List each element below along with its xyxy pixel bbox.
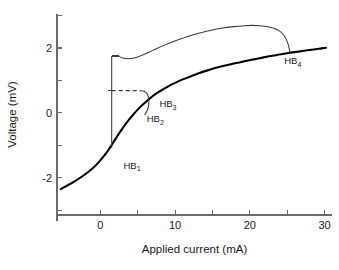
x-axis-ticks: 0102030 [97,210,330,231]
hb-subscript: 1 [137,165,141,172]
axes-group [57,14,332,221]
x-tick-label: 30 [318,219,330,231]
hb-subscript: 4 [297,61,301,68]
chart-figure: 0102030 -202 HB1HB2HB3HB4 Applied curren… [0,0,339,270]
y-tick-label: -2 [42,172,52,184]
hb-subscript: 2 [160,119,164,126]
hb-base: HB [159,98,172,109]
series-upper-periodic-branch [119,25,290,58]
x-axis-title: Applied current (mA) [142,243,248,255]
hb-subscript: 3 [173,104,177,111]
hb-base: HB [124,160,137,171]
y-tick-label: 2 [46,42,52,54]
label-HB3: HB3 [159,98,176,111]
y-axis-ticks: -202 [42,16,62,211]
bifurcation-diagram: 0102030 -202 HB1HB2HB3HB4 Applied curren… [0,0,339,270]
label-HB4: HB4 [284,55,301,68]
branch-stubs-group [108,56,119,91]
y-axis-title: Voltage (mV) [6,81,18,148]
label-HB1: HB1 [124,160,141,173]
hb-base: HB [284,55,297,66]
data-series-group [61,25,326,189]
hb-base: HB [147,113,160,124]
hopf-bifurcation-labels: HB1HB2HB3HB4 [124,55,302,172]
series-steady-state-branch [61,48,326,189]
y-tick-label: 0 [46,107,52,119]
x-tick-label: 0 [97,219,103,231]
x-tick-label: 20 [244,219,256,231]
label-HB2: HB2 [147,113,164,126]
x-tick-label: 10 [169,219,181,231]
